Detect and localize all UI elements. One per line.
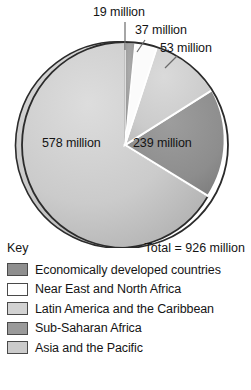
slice-label-asia-and-the-pacific: 578 million bbox=[42, 136, 101, 150]
legend-item-asia-and-the-pacific: Asia and the Pacific bbox=[0, 338, 251, 358]
pie-chart-area: 19 million 37 million 53 million 578 mil… bbox=[0, 0, 251, 248]
legend-item-economically-developed-countries: Economically developed countries bbox=[0, 260, 251, 280]
key-title: Key bbox=[7, 241, 29, 255]
legend-item-near-east-and-north-africa: Near East and North Africa bbox=[0, 280, 251, 300]
legend-item-label: Economically developed countries bbox=[35, 263, 221, 277]
legend-swatch-icon bbox=[7, 283, 28, 296]
legend-item-latin-america-and-the-caribbean: Latin America and the Caribbean bbox=[0, 299, 251, 319]
legend-swatch-icon bbox=[7, 322, 28, 335]
pie-chart-svg bbox=[0, 0, 251, 248]
slice-label-sub-saharan-africa: 239 million bbox=[133, 136, 192, 150]
slice-callout-economically-developed-countries: 19 million bbox=[93, 5, 145, 19]
legend-item-label: Asia and the Pacific bbox=[35, 341, 143, 355]
legend-item-label: Near East and North Africa bbox=[35, 282, 181, 296]
slice-callout-near-east-and-north-africa: 37 million bbox=[135, 23, 187, 37]
total-label: Total = 926 million bbox=[145, 241, 245, 255]
legend: Economically developed countries Near Ea… bbox=[0, 260, 251, 358]
legend-swatch-icon bbox=[7, 341, 28, 354]
slice-callout-latin-america-and-the-caribbean: 53 million bbox=[160, 41, 212, 55]
legend-item-label: Latin America and the Caribbean bbox=[35, 302, 214, 316]
legend-item-label: Sub-Saharan Africa bbox=[35, 321, 142, 335]
legend-item-sub-saharan-africa: Sub-Saharan Africa bbox=[0, 319, 251, 339]
legend-swatch-icon bbox=[7, 263, 28, 276]
pie-chart-figure: 19 million 37 million 53 million 578 mil… bbox=[0, 0, 251, 390]
legend-swatch-icon bbox=[7, 302, 28, 315]
key-header-row: Key Total = 926 million bbox=[0, 241, 251, 259]
